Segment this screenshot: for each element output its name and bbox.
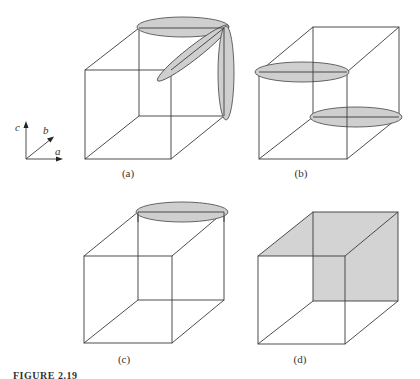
shaded-back-face [313,212,398,301]
panel-b: (b) [255,27,402,180]
panel-label-d: (d) [294,353,307,366]
axis-label-c: c [15,121,20,133]
panel-label-c: (c) [118,353,131,366]
figure-caption: FIGURE 2.19 [13,370,77,379]
arrow-c-icon [24,121,29,128]
figure-canvas: c b a (a) (b) [0,0,420,379]
panel-label-b: (b) [295,167,308,180]
ellipsoid-c-axis [218,26,234,120]
axis-label-a: a [55,145,61,157]
panel-label-a: (a) [122,167,135,180]
arrow-a-icon [56,157,63,162]
panel-c: (c) [84,202,228,366]
axis-label-b: b [43,124,49,136]
axes-triad: c b a [15,121,63,162]
panel-a: (a) [85,17,234,180]
panel-d: (d) [258,212,398,366]
